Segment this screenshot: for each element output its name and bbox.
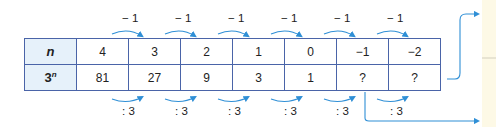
op-label-bottom: : 3 [122, 105, 135, 117]
op-label-top: − 1 [175, 12, 191, 24]
row-header-n: n [25, 39, 77, 65]
leader-arrow-bottom [365, 92, 478, 121]
cell: 4 [77, 39, 129, 65]
table-row-power: 3n 81 27 9 3 1 ? ? [25, 65, 441, 91]
bottom-arrow-5 [324, 97, 354, 102]
op-label-bottom: : 3 [336, 105, 349, 117]
bottom-arrow-2 [165, 97, 195, 102]
top-arrow-2 [165, 31, 195, 36]
op-label-top: − 1 [334, 12, 350, 24]
cell: ? [389, 65, 441, 91]
op-label-bottom: : 3 [284, 105, 297, 117]
bottom-arrows [112, 97, 407, 102]
cell: 0 [285, 39, 337, 65]
top-arrows [112, 31, 407, 36]
top-arrow-4 [271, 31, 301, 36]
row-header-power: 3n [25, 65, 77, 91]
bottom-arrow-3 [218, 97, 248, 102]
powers-table: n 4 3 2 1 0 −1 −2 3n 81 27 9 3 1 ? ? [24, 38, 441, 91]
bottom-arrow-4 [271, 97, 301, 102]
cell: 2 [181, 39, 233, 65]
op-label-top: − 1 [281, 12, 297, 24]
op-label-bottom: : 3 [228, 105, 241, 117]
op-label-top: − 1 [228, 12, 244, 24]
cell: 81 [77, 65, 129, 91]
op-label-top: − 1 [122, 12, 138, 24]
cell: −2 [389, 39, 441, 65]
cell: 9 [181, 65, 233, 91]
cell: 3 [129, 39, 181, 65]
cell: 1 [233, 39, 285, 65]
top-arrow-6 [377, 31, 407, 36]
cell: 3 [233, 65, 285, 91]
cell: −1 [337, 39, 389, 65]
cell: 27 [129, 65, 181, 91]
op-label-bottom: : 3 [175, 105, 188, 117]
top-arrow-5 [324, 31, 354, 36]
bottom-arrow-1 [112, 97, 142, 102]
cell: ? [337, 65, 389, 91]
bottom-arrow-6 [377, 97, 407, 102]
op-label-top: − 1 [387, 12, 403, 24]
leader-arrow-top [447, 14, 478, 79]
table-row-n: n 4 3 2 1 0 −1 −2 [25, 39, 441, 65]
cell: 1 [285, 65, 337, 91]
op-label-bottom: : 3 [390, 105, 403, 117]
top-arrow-3 [218, 31, 248, 36]
top-arrow-1 [112, 31, 142, 36]
